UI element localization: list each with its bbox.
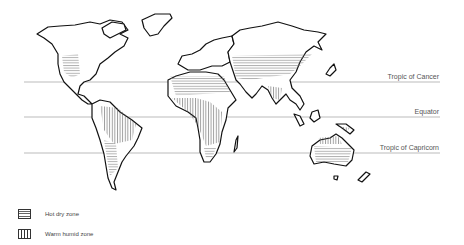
europe — [178, 36, 234, 70]
legend-label: Warm humid zone — [45, 231, 93, 237]
legend-hot-dry: Hot dry zone — [18, 209, 79, 219]
vertical-hatch-swatch-icon — [18, 229, 31, 239]
horizontal-hatch-swatch-icon — [18, 209, 31, 219]
japan — [326, 64, 336, 76]
indonesia — [294, 114, 304, 126]
greenland — [142, 14, 172, 36]
tropic-of-capricorn-label: Tropic of Capricorn — [380, 144, 439, 151]
legend-label: Hot dry zone — [45, 211, 79, 217]
legend-warm-humid: Warm humid zone — [18, 229, 93, 239]
tasmania — [334, 176, 338, 180]
tropic-of-cancer-label: Tropic of Cancer — [388, 73, 439, 80]
new-zealand — [358, 172, 370, 182]
equator-label: Equator — [414, 108, 439, 115]
borneo — [310, 110, 320, 122]
madagascar — [234, 136, 238, 152]
